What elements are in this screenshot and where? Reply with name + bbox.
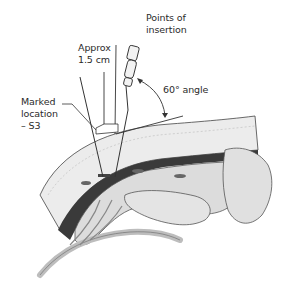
foramen-1 [81,181,91,185]
approx-bracket [96,124,118,134]
label-angle: 60° angle [163,84,208,95]
angle-arc [139,80,165,115]
marked-location [98,174,110,177]
arrow-head-bottom [162,113,168,118]
vertical-reference [115,45,116,134]
arrow-head-top [137,78,143,84]
needle-hub [123,45,139,87]
sciatic-nerve [40,232,180,275]
foramen-3 [174,174,186,178]
label-approx-2: 1.5 cm [78,54,110,65]
diagram-canvas: Points of insertion Approx 1.5 cm Marked… [0,0,289,293]
label-marked-3: – S3 [21,120,40,131]
label-marked-2: location [21,108,58,119]
foramen-2 [132,169,144,173]
label-points-of-insertion-1: Points of [146,12,186,23]
label-points-of-insertion-2: insertion [146,24,187,35]
lumbar-vertebra [223,148,272,223]
label-approx-1: Approx [78,42,111,53]
needle-shaft [126,86,128,110]
label-marked-1: Marked [21,96,55,107]
sacrum-illustration [0,0,289,293]
